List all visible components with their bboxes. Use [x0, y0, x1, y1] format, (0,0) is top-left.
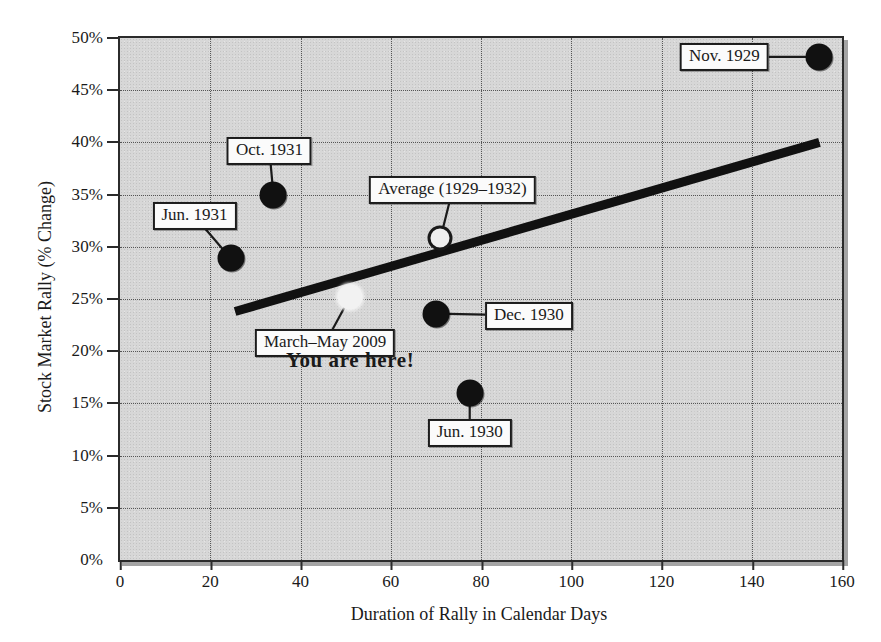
- gridline-vertical: [301, 38, 302, 560]
- gridline-horizontal: [120, 351, 842, 352]
- gridline-vertical: [752, 38, 753, 560]
- plot-area: Nov. 1929Oct. 1931Jun. 1931Dec. 1930Jun.…: [118, 36, 844, 562]
- gridline-horizontal: [120, 90, 842, 91]
- y-tick-label: 40%: [72, 132, 120, 152]
- y-tick-label: 5%: [80, 498, 120, 518]
- y-tick-label: 0%: [80, 550, 120, 570]
- x-tick-label: 20: [202, 572, 219, 592]
- data-point-label: Jun. 1930: [428, 419, 512, 447]
- data-point-marker: [422, 300, 449, 327]
- data-point-marker: [806, 43, 833, 70]
- data-point-marker: [260, 181, 287, 208]
- y-tick-label: 10%: [72, 446, 120, 466]
- y-axis-title: Stock Market Rally (% Change): [30, 36, 60, 558]
- gridline-horizontal: [120, 508, 842, 509]
- x-tick-label: 120: [649, 572, 675, 592]
- y-tick-label: 25%: [72, 289, 120, 309]
- gridline-vertical: [391, 38, 392, 560]
- x-tick-label: 60: [382, 572, 399, 592]
- y-tick-label: 50%: [72, 28, 120, 48]
- gridline-vertical: [662, 38, 663, 560]
- data-point-marker: [456, 379, 483, 406]
- gridline-vertical: [210, 38, 211, 560]
- x-tick-label: 80: [473, 572, 490, 592]
- gridline-horizontal: [120, 403, 842, 404]
- y-tick-label: 45%: [72, 80, 120, 100]
- data-point-marker: [338, 284, 363, 309]
- y-tick-label: 15%: [72, 393, 120, 413]
- x-tick-label: 40: [292, 572, 309, 592]
- y-tick-label: 35%: [72, 185, 120, 205]
- x-tick-label: 0: [116, 572, 125, 592]
- data-point-label: Average (1929–1932): [369, 176, 535, 204]
- data-point-label: Nov. 1929: [680, 43, 769, 71]
- plot-background-texture: [120, 38, 842, 560]
- data-point-label: Dec. 1930: [485, 302, 573, 330]
- stock-market-rally-scatter-chart: Stock Market Rally (% Change) Duration o…: [0, 0, 881, 642]
- x-tick-label: 140: [739, 572, 765, 592]
- y-tick-label: 30%: [72, 237, 120, 257]
- data-point-marker: [428, 226, 453, 251]
- gridline-horizontal: [120, 299, 842, 300]
- gridline-horizontal: [120, 456, 842, 457]
- trendline: [120, 38, 842, 560]
- data-point-marker: [217, 245, 244, 272]
- callout-leader-lines: [120, 38, 842, 560]
- x-tick-label: 160: [829, 572, 855, 592]
- data-point-label: Jun. 1931: [152, 202, 236, 230]
- x-tick-label: 100: [559, 572, 585, 592]
- y-tick-label: 20%: [72, 341, 120, 361]
- data-point-label: Oct. 1931: [227, 137, 312, 165]
- x-axis-title: Duration of Rally in Calendar Days: [118, 604, 840, 625]
- gridline-vertical: [571, 38, 572, 560]
- you-are-here-annotation: You are here!: [286, 347, 414, 372]
- gridline-vertical: [481, 38, 482, 560]
